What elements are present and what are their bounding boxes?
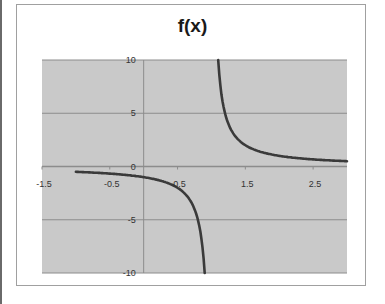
y-tick-label: -5 [128, 215, 136, 225]
x-tick-label: -0.5 [104, 179, 120, 189]
y-tick-label: 0 [131, 162, 136, 172]
x-tick-label: 0.5 [173, 179, 186, 189]
y-tick-label: -10 [123, 268, 136, 278]
chart-plot: 1050-5-10-1.5-0.50.51.52.5 [0, 0, 385, 304]
y-tick-label: 5 [131, 108, 136, 118]
x-tick-label: 1.5 [241, 179, 254, 189]
x-tick-label: 2.5 [309, 179, 322, 189]
y-tick-label: 10 [126, 55, 136, 65]
x-tick-label: -1.5 [36, 179, 52, 189]
